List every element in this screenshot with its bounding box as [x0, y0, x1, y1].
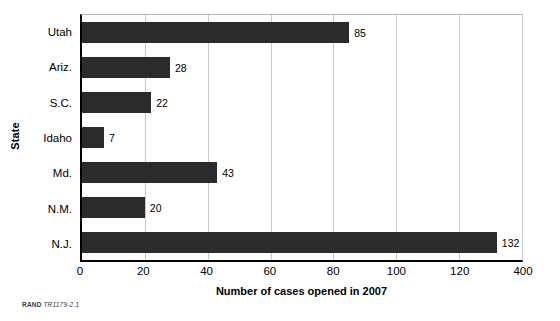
x-tick-label: 40 — [200, 265, 213, 277]
bar-value-label: 43 — [222, 167, 234, 179]
y-tick-label: S.C. — [24, 85, 78, 120]
y-tick-label: Utah — [24, 14, 78, 49]
y-tick-label: Md. — [24, 156, 78, 191]
credit-brand: RAND — [22, 301, 42, 308]
x-tick-label: 100 — [387, 265, 406, 277]
bar: 7 — [82, 127, 104, 148]
bar-row: 43 — [82, 155, 522, 190]
bar: 20 — [82, 197, 145, 218]
bar: 22 — [82, 92, 151, 113]
x-tick-label: 80 — [327, 265, 340, 277]
y-axis-title: State — [4, 0, 26, 272]
x-tick-label: 400 — [513, 265, 532, 277]
y-tick-label: Idaho — [24, 120, 78, 155]
gridline — [522, 15, 523, 260]
bar-chart-figure: State UtahAriz.S.C.IdahoMd.N.M.N.J. 8528… — [0, 0, 560, 321]
bar-value-label: 20 — [150, 202, 162, 214]
bar: 85 — [82, 22, 349, 43]
bar-row: 20 — [82, 190, 522, 225]
y-axis-title-text: State — [9, 122, 21, 149]
bar-row: 22 — [82, 85, 522, 120]
bar-value-label: 132 — [502, 237, 520, 249]
bar-row: 85 — [82, 15, 522, 50]
bar: 28 — [82, 57, 170, 78]
bar-row: 28 — [82, 50, 522, 85]
x-tick-label: 120 — [450, 265, 469, 277]
bar-row: 132 — [82, 225, 522, 260]
bar-value-label: 7 — [109, 132, 115, 144]
bar-series: 85282274320132 — [82, 15, 522, 260]
y-tick-label: N.M. — [24, 191, 78, 226]
x-tick-label: 0 — [77, 265, 83, 277]
bar: 132 — [82, 232, 497, 253]
bar-value-label: 85 — [354, 27, 366, 39]
bar: 43 — [82, 162, 217, 183]
bar-row: 7 — [82, 120, 522, 155]
x-axis-tick-labels: 020406080100120400 — [80, 265, 523, 281]
source-credit: RAND TR1179-2.1 — [22, 301, 79, 308]
x-tick-label: 60 — [263, 265, 276, 277]
x-tick-label: 20 — [137, 265, 150, 277]
plot-area: 85282274320132 — [80, 14, 523, 262]
x-axis-title: Number of cases opened in 2007 — [80, 285, 523, 297]
bar-value-label: 28 — [175, 62, 187, 74]
credit-id: TR1179-2.1 — [43, 301, 79, 308]
y-tick-label: N.J. — [24, 227, 78, 262]
y-tick-label: Ariz. — [24, 49, 78, 84]
bar-value-label: 22 — [156, 97, 168, 109]
y-axis-tick-labels: UtahAriz.S.C.IdahoMd.N.M.N.J. — [24, 14, 78, 262]
